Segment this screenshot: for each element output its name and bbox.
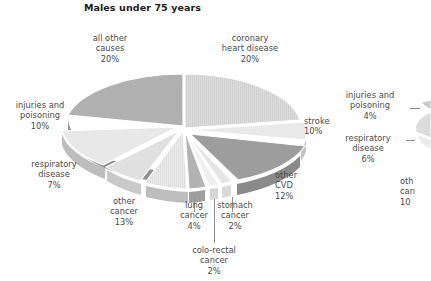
label-lung-cancer: lung cancer 4%	[170, 200, 218, 231]
label-injuries-and-poisoning: injuries and poisoning 10%	[2, 100, 78, 131]
label-other-cancer-line1: other	[96, 196, 152, 206]
label-other-cvd-line2: CVD	[275, 180, 329, 190]
slice-coronary-heart-disease	[185, 74, 300, 128]
label-injuries-and-poisoning-pct: 10%	[2, 121, 78, 131]
label-respiratory-disease-line1: respiratory	[20, 159, 88, 169]
label-lung-cancer-line2: cancer	[170, 210, 218, 220]
leader-line-respiratory-secondary	[406, 140, 415, 141]
label-secondary-injuries-and-poisoning-pct: 4%	[332, 111, 408, 121]
label-other-cancer: other cancer 13%	[96, 196, 152, 227]
label-lung-cancer-line1: lung	[170, 200, 218, 210]
label-other-cancer-pct: 13%	[96, 217, 152, 227]
label-lung-cancer-pct: 4%	[170, 221, 218, 231]
label-coronary-heart-disease-pct: 20%	[198, 54, 302, 64]
label-secondary-injuries-and-poisoning-line2: poisoning	[332, 100, 408, 110]
slice-all-other-causes	[68, 74, 183, 126]
label-secondary-other-cancer-clipped: oth can 10	[400, 176, 431, 207]
label-colo-rectal-cancer-pct: 2%	[182, 266, 246, 276]
label-coronary-heart-disease: coronary heart disease 20%	[198, 33, 302, 64]
label-secondary-respiratory-disease: respiratory disease 6%	[332, 133, 404, 164]
label-secondary-respiratory-disease-line1: respiratory	[332, 133, 404, 143]
label-respiratory-disease-line2: disease	[20, 169, 88, 179]
label-secondary-injuries-and-poisoning-line1: injuries and	[332, 90, 408, 100]
label-respiratory-disease-pct: 7%	[20, 180, 88, 190]
label-all-other-causes-pct: 20%	[72, 54, 148, 64]
label-colo-rectal-cancer: colo-rectal cancer 2%	[182, 245, 246, 276]
leader-line-injuries-secondary	[410, 108, 420, 109]
label-other-cvd-pct: 12%	[275, 191, 329, 201]
label-colo-rectal-cancer-line1: colo-rectal	[182, 245, 246, 255]
label-injuries-and-poisoning-line1: injuries and	[2, 100, 78, 110]
pie-chart-figure: Males under 75 years	[0, 0, 431, 281]
label-coronary-heart-disease-line2: heart disease	[198, 43, 302, 53]
label-all-other-causes-line1: all other	[72, 33, 148, 43]
label-other-cancer-line2: cancer	[96, 206, 152, 216]
label-secondary-injuries-and-poisoning: injuries and poisoning 4%	[332, 90, 408, 121]
label-secondary-other-cancer-clipped-line1: oth	[400, 176, 431, 186]
label-injuries-and-poisoning-line2: poisoning	[2, 110, 78, 120]
label-other-cvd-line1: other	[275, 170, 329, 180]
label-secondary-respiratory-disease-pct: 6%	[332, 154, 404, 164]
label-colo-rectal-cancer-line2: cancer	[182, 255, 246, 265]
label-all-other-causes: all other causes 20%	[72, 33, 148, 64]
label-all-other-causes-line2: causes	[72, 43, 148, 53]
label-secondary-respiratory-disease-line2: disease	[332, 143, 404, 153]
label-respiratory-disease: respiratory disease 7%	[20, 159, 88, 190]
label-coronary-heart-disease-line1: coronary	[198, 33, 302, 43]
label-secondary-other-cancer-clipped-pct: 10	[400, 197, 431, 207]
label-other-cvd: other CVD 12%	[275, 170, 329, 201]
label-secondary-other-cancer-clipped-line2: can	[400, 186, 431, 196]
